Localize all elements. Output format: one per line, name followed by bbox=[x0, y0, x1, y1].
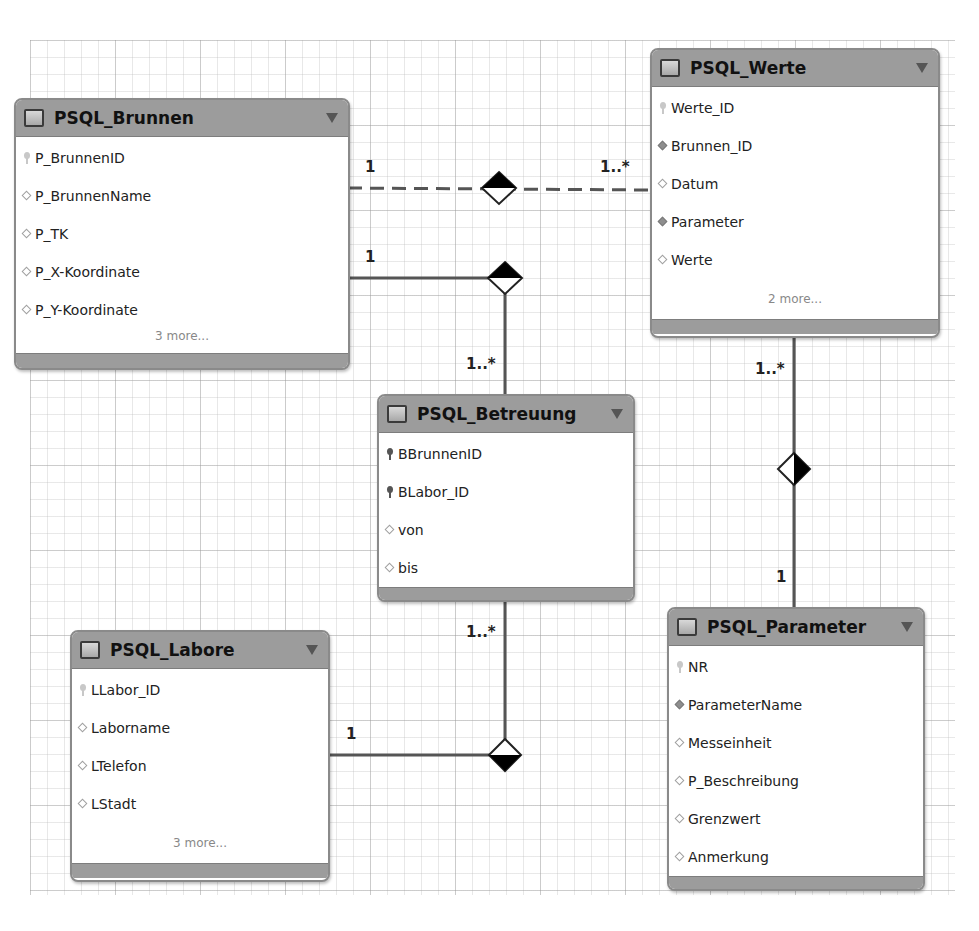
column-row[interactable]: Werte bbox=[652, 241, 938, 279]
column-row[interactable]: Laborname bbox=[72, 709, 328, 747]
column-name: P_BrunnenName bbox=[35, 188, 151, 204]
table-header[interactable]: PSQL_Parameter bbox=[669, 609, 923, 646]
column-name: P_Y-Koordinate bbox=[35, 302, 138, 318]
primary-key-icon bbox=[22, 152, 32, 164]
foreign-key-icon bbox=[675, 699, 685, 711]
table-footer bbox=[669, 876, 923, 891]
cardinality-label: 1 bbox=[346, 725, 356, 743]
table-header[interactable]: PSQL_Betreuung bbox=[379, 396, 633, 433]
primary-key-icon bbox=[675, 661, 685, 673]
column-icon bbox=[22, 190, 32, 202]
column-name: Parameter bbox=[671, 214, 744, 230]
column-name: Anmerkung bbox=[688, 849, 769, 865]
table-icon bbox=[660, 59, 680, 77]
column-icon bbox=[675, 813, 685, 825]
column-row[interactable]: P_BrunnenID bbox=[16, 139, 348, 177]
column-row[interactable]: NR bbox=[669, 648, 923, 686]
column-name: Grenzwert bbox=[688, 811, 760, 827]
table-psql-parameter[interactable]: PSQL_Parameter NR ParameterName Messeinh… bbox=[667, 607, 925, 891]
collapse-arrow-icon[interactable] bbox=[611, 409, 623, 419]
column-row[interactable]: P_TK bbox=[16, 215, 348, 253]
table-footer bbox=[652, 319, 938, 334]
table-icon bbox=[24, 109, 44, 127]
column-icon bbox=[658, 254, 668, 266]
column-name: P_BrunnenID bbox=[35, 150, 125, 166]
column-name: BBrunnenID bbox=[398, 446, 482, 462]
cardinality-label: 1..* bbox=[600, 158, 630, 176]
table-psql-brunnen[interactable]: PSQL_Brunnen P_BrunnenID P_BrunnenName P… bbox=[14, 98, 350, 370]
column-icon bbox=[675, 851, 685, 863]
relationship-brunnen-betreuung[interactable] bbox=[348, 262, 522, 395]
column-row[interactable]: LLabor_ID bbox=[72, 671, 328, 709]
primary-key-icon bbox=[385, 448, 395, 460]
column-row[interactable]: P_BrunnenName bbox=[16, 177, 348, 215]
column-row[interactable]: bis bbox=[379, 549, 633, 587]
column-icon bbox=[78, 722, 88, 734]
table-name: PSQL_Betreuung bbox=[417, 404, 611, 424]
column-row[interactable]: LTelefon bbox=[72, 747, 328, 785]
column-row[interactable]: Anmerkung bbox=[669, 838, 923, 876]
column-icon bbox=[22, 228, 32, 240]
table-header[interactable]: PSQL_Werte bbox=[652, 50, 938, 87]
cardinality-label: 1 bbox=[365, 248, 375, 266]
column-icon bbox=[675, 775, 685, 787]
column-name: bis bbox=[398, 560, 418, 576]
column-icon bbox=[78, 760, 88, 772]
table-icon bbox=[677, 618, 697, 636]
cardinality-label: 1..* bbox=[466, 623, 496, 641]
cardinality-label: 1 bbox=[365, 158, 375, 176]
column-name: von bbox=[398, 522, 424, 538]
column-name: Werte_ID bbox=[671, 100, 734, 116]
column-row[interactable]: Datum bbox=[652, 165, 938, 203]
primary-key-icon bbox=[78, 684, 88, 696]
column-row[interactable]: P_Y-Koordinate bbox=[16, 291, 348, 329]
table-psql-betreuung[interactable]: PSQL_Betreuung BBrunnenID BLabor_ID von … bbox=[377, 394, 635, 602]
table-icon bbox=[80, 641, 100, 659]
column-row[interactable]: Parameter bbox=[652, 203, 938, 241]
column-name: Werte bbox=[671, 252, 713, 268]
column-name: P_TK bbox=[35, 226, 68, 242]
column-row[interactable]: Grenzwert bbox=[669, 800, 923, 838]
column-icon bbox=[658, 178, 668, 190]
column-name: Messeinheit bbox=[688, 735, 772, 751]
table-icon bbox=[387, 405, 407, 423]
column-name: Brunnen_ID bbox=[671, 138, 752, 154]
column-name: LTelefon bbox=[91, 758, 147, 774]
column-name: Laborname bbox=[91, 720, 170, 736]
table-psql-werte[interactable]: PSQL_Werte Werte_ID Brunnen_ID Datum Par… bbox=[650, 48, 940, 338]
column-name: P_X-Koordinate bbox=[35, 264, 140, 280]
table-header[interactable]: PSQL_Labore bbox=[72, 632, 328, 669]
column-icon bbox=[385, 562, 395, 574]
column-row[interactable]: BBrunnenID bbox=[379, 435, 633, 473]
column-row[interactable]: LStadt bbox=[72, 785, 328, 823]
column-row[interactable]: Messeinheit bbox=[669, 724, 923, 762]
primary-key-icon bbox=[658, 102, 668, 114]
cardinality-label: 1 bbox=[776, 568, 786, 586]
column-name: LLabor_ID bbox=[91, 682, 160, 698]
column-icon bbox=[78, 798, 88, 810]
collapse-arrow-icon[interactable] bbox=[901, 622, 913, 632]
cardinality-label: 1..* bbox=[755, 360, 785, 378]
column-row[interactable]: P_Beschreibung bbox=[669, 762, 923, 800]
column-name: LStadt bbox=[91, 796, 136, 812]
column-row[interactable]: von bbox=[379, 511, 633, 549]
table-psql-labore[interactable]: PSQL_Labore LLabor_ID Laborname LTelefon… bbox=[70, 630, 330, 882]
column-row[interactable]: ParameterName bbox=[669, 686, 923, 724]
table-footer bbox=[379, 587, 633, 602]
table-name: PSQL_Brunnen bbox=[54, 108, 326, 128]
more-columns-link[interactable]: 3 more... bbox=[72, 823, 328, 863]
column-row[interactable]: BLabor_ID bbox=[379, 473, 633, 511]
table-header[interactable]: PSQL_Brunnen bbox=[16, 100, 348, 137]
collapse-arrow-icon[interactable] bbox=[916, 63, 928, 73]
more-columns-link[interactable]: 2 more... bbox=[652, 279, 938, 319]
table-footer bbox=[16, 353, 348, 368]
column-row[interactable]: Brunnen_ID bbox=[652, 127, 938, 165]
primary-key-icon bbox=[385, 486, 395, 498]
column-row[interactable]: P_X-Koordinate bbox=[16, 253, 348, 291]
more-columns-link[interactable]: 3 more... bbox=[16, 329, 348, 353]
collapse-arrow-icon[interactable] bbox=[326, 113, 338, 123]
column-row[interactable]: Werte_ID bbox=[652, 89, 938, 127]
column-name: Datum bbox=[671, 176, 718, 192]
relationship-brunnen-werte[interactable] bbox=[348, 172, 652, 204]
collapse-arrow-icon[interactable] bbox=[306, 645, 318, 655]
